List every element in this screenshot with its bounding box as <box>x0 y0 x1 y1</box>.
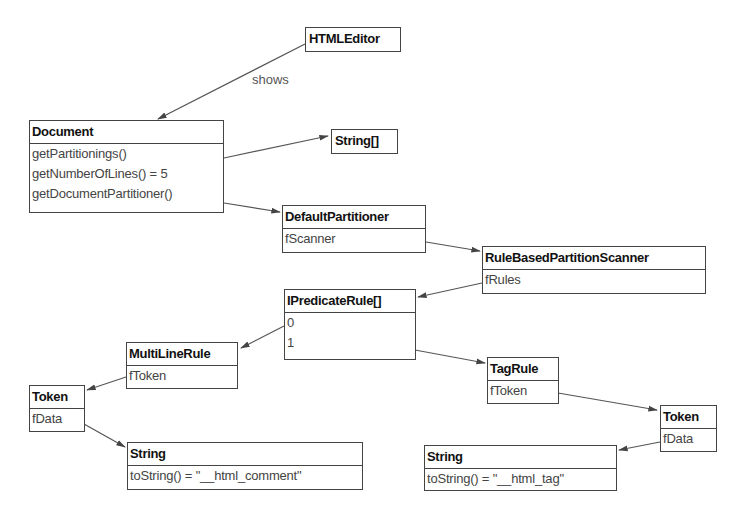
method-get-partitionings[interactable]: getPartitionings() <box>30 144 223 164</box>
field-frules[interactable]: fRules <box>483 270 705 290</box>
node-title: IPredicateRule[] <box>285 290 415 312</box>
edge-fscanner <box>426 242 480 251</box>
field-ftoken[interactable]: fToken <box>127 366 237 386</box>
node-title: Token <box>30 386 84 408</box>
node-rule-based-partition-scanner[interactable]: RuleBasedPartitionScanner fRules <box>482 246 706 294</box>
edge-tagrule-ftoken <box>558 393 657 410</box>
node-title: String <box>425 446 616 468</box>
edge-token-right-fdata <box>619 442 660 450</box>
array-index-0[interactable]: 0 <box>285 313 415 333</box>
node-string-html-comment[interactable]: String toString() = "__html_comment" <box>127 442 363 490</box>
node-tag-rule[interactable]: TagRule fToken <box>487 357 559 404</box>
field-fdata[interactable]: fData <box>30 409 84 429</box>
node-ipredicaterule-array[interactable]: IPredicateRule[] 0 1 <box>284 289 416 360</box>
node-title: TagRule <box>488 358 558 380</box>
node-title: HTMLEditor <box>306 28 400 50</box>
edge-multiline-ftoken <box>87 377 126 390</box>
field-fdata[interactable]: fData <box>661 429 716 449</box>
edge-partitionings <box>224 136 328 158</box>
method-to-string[interactable]: toString() = "__html_comment" <box>128 466 362 486</box>
method-get-number-of-lines[interactable]: getNumberOfLines() = 5 <box>30 164 223 184</box>
node-token-left[interactable]: Token fData <box>29 385 85 432</box>
node-title: String <box>128 443 362 465</box>
node-string-html-tag[interactable]: String toString() = "__html_tag" <box>424 445 617 491</box>
method-to-string[interactable]: toString() = "__html_tag" <box>425 469 616 489</box>
node-title: Token <box>661 406 716 428</box>
method-get-document-partitioner[interactable]: getDocumentPartitioner() <box>30 184 223 204</box>
array-index-1[interactable]: 1 <box>285 333 415 353</box>
node-html-editor[interactable]: HTMLEditor <box>305 27 401 52</box>
node-document[interactable]: Document getPartitionings() getNumberOfL… <box>29 120 224 213</box>
node-title: MultiLineRule <box>127 343 237 365</box>
edge-document-partitioner <box>224 203 280 212</box>
node-multiline-rule[interactable]: MultiLineRule fToken <box>126 342 238 389</box>
edge-rule-1 <box>415 350 485 363</box>
edge-frules <box>418 283 482 297</box>
field-fscanner[interactable]: fScanner <box>283 229 425 249</box>
node-title: DefaultPartitioner <box>283 206 425 228</box>
edge-rule-0 <box>241 326 284 348</box>
node-title: String[] <box>332 130 397 152</box>
edge-token-left-fdata <box>84 424 125 447</box>
node-string-array[interactable]: String[] <box>331 129 398 154</box>
node-title: RuleBasedPartitionScanner <box>483 247 705 269</box>
node-default-partitioner[interactable]: DefaultPartitioner fScanner <box>282 205 426 253</box>
edge-label-shows: shows <box>252 72 289 87</box>
field-ftoken[interactable]: fToken <box>488 381 558 401</box>
node-token-right[interactable]: Token fData <box>660 405 717 452</box>
node-title: Document <box>30 121 223 143</box>
